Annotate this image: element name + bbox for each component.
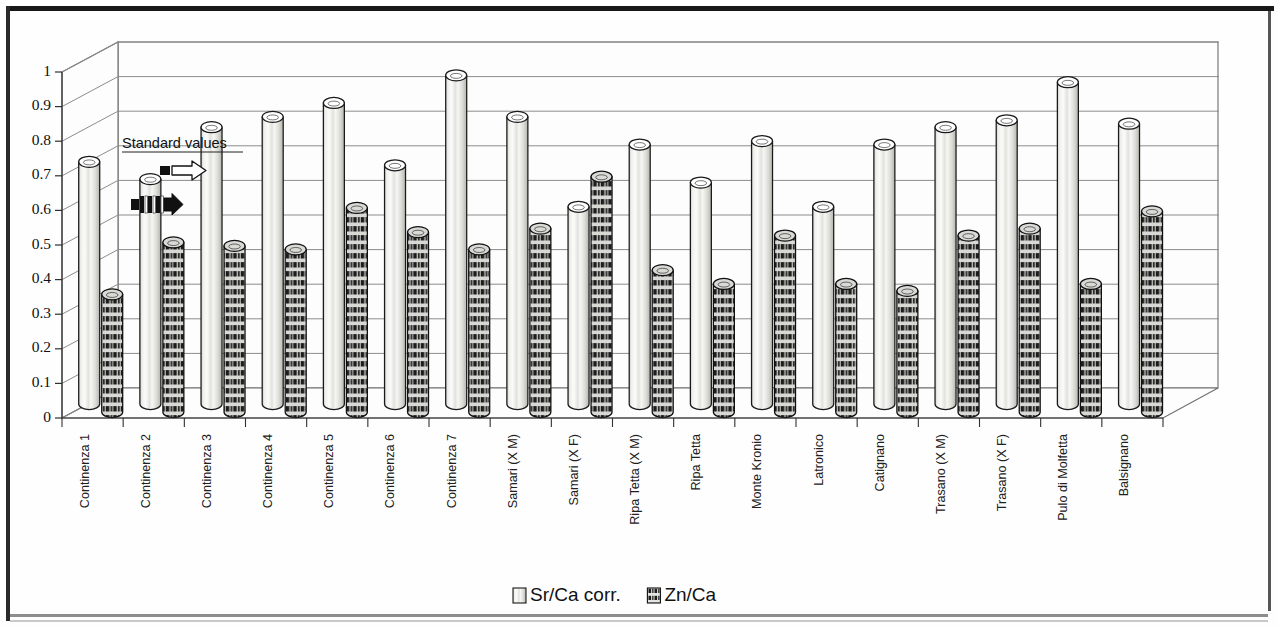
- bar-znca: [1019, 223, 1040, 417]
- bar-znca: [285, 244, 306, 418]
- cylinder-body: [996, 120, 1017, 409]
- cylinder-cap: [836, 278, 857, 289]
- cylinder-cap: [1119, 118, 1140, 129]
- x-axis-category-label: Continenza 6: [383, 434, 397, 508]
- scanned-page: 00.10.20.30.40.50.60.70.80.91 Continenza…: [0, 0, 1278, 627]
- cylinder-body: [591, 177, 612, 418]
- chart-canvas: 00.10.20.30.40.50.60.70.80.91 Continenza…: [0, 0, 1278, 627]
- cylinder-body: [507, 117, 528, 410]
- y-axis-tick-label: 0.8: [32, 131, 52, 148]
- cylinder-body: [958, 236, 979, 418]
- cylinder-body: [629, 145, 650, 410]
- x-axis-category-label: Catignano: [873, 434, 887, 491]
- legend-swatch-srca-icon: [513, 588, 526, 603]
- cylinder-cap: [996, 115, 1017, 126]
- legend-item[interactable]: Zn/Ca: [647, 584, 716, 605]
- cylinder-body: [652, 270, 673, 417]
- cylinder-body: [346, 208, 367, 418]
- cylinder-body: [163, 242, 184, 417]
- y-axis-tick-label: 0.5: [32, 235, 52, 252]
- bar-znca: [775, 230, 796, 417]
- cylinder-cap: [469, 244, 490, 255]
- bar-srca: [690, 177, 711, 409]
- cylinder-body: [262, 117, 283, 410]
- x-axis-category-label: Samari (X F): [567, 434, 581, 505]
- y-axis-tick-label: 0.2: [32, 338, 51, 355]
- y-axis-tick-label: 1: [43, 62, 51, 79]
- bar-srca: [385, 160, 406, 410]
- cylinder-cap: [262, 111, 283, 122]
- cylinder-body: [530, 229, 551, 418]
- cylinder-cap: [385, 160, 406, 171]
- cylinder-body: [285, 249, 306, 417]
- x-axis-category-label: Ripa Tetta: [689, 434, 703, 490]
- standard-values-label: Standard values: [122, 135, 227, 151]
- cylinder-cap: [224, 240, 245, 251]
- cylinder-cap: [897, 285, 918, 296]
- cylinder-body: [446, 75, 467, 409]
- bar-znca: [224, 240, 245, 417]
- bar-srca: [629, 139, 650, 410]
- cylinder-cap: [713, 278, 734, 289]
- bar-znca: [1142, 206, 1163, 418]
- cylinder-cap: [201, 122, 222, 133]
- cylinder-cap: [1057, 77, 1078, 88]
- cylinder-cap: [629, 139, 650, 150]
- cylinder-body: [1057, 82, 1078, 409]
- cylinder-body: [836, 284, 857, 418]
- y-axis-tick-label: 0.4: [32, 269, 52, 286]
- x-axis-category-label: Continenza 2: [139, 434, 153, 508]
- bar-znca: [102, 289, 123, 418]
- legend-label: Zn/Ca: [664, 584, 716, 605]
- x-axis-category-label: Balsignano: [1117, 434, 1131, 496]
- cylinder-cap: [346, 202, 367, 213]
- x-axis: Continenza 1Continenza 2Continenza 3Cont…: [62, 418, 1163, 525]
- cylinder-body: [568, 207, 589, 410]
- cylinder-body: [775, 236, 796, 418]
- bar-srca: [935, 122, 956, 410]
- cylinder-cap: [775, 230, 796, 241]
- y-axis-tick-label: 0.6: [32, 200, 52, 217]
- y-axis-tick-label: 0.7: [32, 165, 52, 182]
- cylinder-cap: [652, 265, 673, 276]
- cylinder-body: [752, 141, 773, 409]
- cylinder-cap: [935, 122, 956, 133]
- x-axis-category-label: Trasano (X F): [995, 434, 1009, 511]
- y-axis: 00.10.20.30.40.50.60.70.80.91: [32, 62, 62, 425]
- bar-znca: [652, 265, 673, 418]
- cylinder-body: [79, 162, 100, 410]
- bar-znca: [469, 244, 490, 418]
- bar-znca: [408, 227, 429, 418]
- chart-legend: Sr/Ca corr.Zn/Ca: [513, 584, 717, 605]
- cylinder-cap: [958, 230, 979, 241]
- bar-srca: [568, 201, 589, 409]
- bar-znca: [713, 278, 734, 417]
- cylinder-cap: [530, 223, 551, 234]
- cylinder-body: [874, 145, 895, 410]
- cylinder-cap: [163, 237, 184, 248]
- cylinder-body: [469, 249, 490, 417]
- cylinder-body: [1080, 284, 1101, 418]
- cylinder-body: [690, 183, 711, 410]
- cylinder-cap: [323, 97, 344, 108]
- y-axis-tick-label: 0.3: [32, 304, 52, 321]
- bar-znca: [591, 171, 612, 417]
- y-axis-tick-label: 0.9: [32, 96, 52, 113]
- legend-item[interactable]: Sr/Ca corr.: [513, 584, 621, 605]
- cylinder-body: [408, 232, 429, 417]
- x-axis-category-label: Trasano (X M): [934, 434, 948, 514]
- cylinder-cap: [446, 70, 467, 81]
- cylinder-cap: [690, 177, 711, 188]
- bar-srca: [323, 97, 344, 409]
- x-axis-category-label: Continenza 3: [200, 434, 214, 508]
- bar-srca: [446, 70, 467, 410]
- x-axis-category-label: Latronico: [812, 434, 826, 486]
- bar-srca: [1119, 118, 1140, 409]
- cylinder-cap: [591, 171, 612, 182]
- bar-srca: [813, 201, 834, 409]
- cylinder-cap: [285, 244, 306, 255]
- bar-srca: [79, 156, 100, 409]
- cylinder-body: [140, 179, 161, 409]
- cylinder-cap: [752, 136, 773, 147]
- cylinder-cap: [408, 227, 429, 238]
